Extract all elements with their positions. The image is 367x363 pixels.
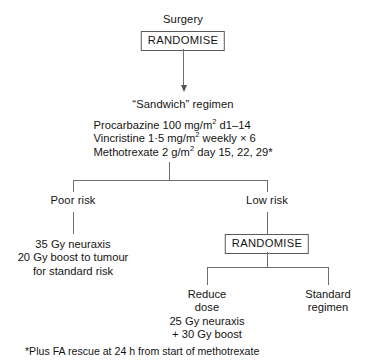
low-risk-arm-a-block: Reduce dose 25 Gy neuraxis + 30 Gy boost — [169, 288, 244, 342]
low-risk-arm-b-block: Standard regimen — [305, 288, 350, 315]
drug-schedule: weekly × 6 — [200, 132, 256, 144]
drug-name: Vincristine — [94, 132, 145, 144]
arm-a-line-2: dose — [169, 301, 244, 314]
connector-poor-risk-drop — [73, 180, 74, 192]
branch-label-low-risk: Low risk — [246, 194, 288, 207]
poor-risk-line-2: 20 Gy boost to tumour — [18, 251, 129, 264]
node-surgery: Surgery — [163, 13, 203, 26]
drug-dose: 2 g/m — [162, 146, 190, 158]
drug-line-procarbazine: Procarbazine 100 mg/m2 d1–14 — [94, 119, 273, 132]
drug-dose: 100 mg/m — [163, 119, 213, 131]
connector-low-risk-to-randomise — [267, 212, 268, 234]
arm-a-line-3: 25 Gy neuraxis — [169, 315, 244, 328]
drug-name: Methotrexate — [94, 146, 159, 158]
connector-poor-risk-to-treatment — [73, 212, 74, 234]
connector-arm-a-drop — [207, 267, 208, 285]
connector-randomise-to-regimen — [183, 49, 184, 87]
connector-randomise2-stem — [267, 252, 268, 267]
drug-schedule: day 15, 22, 29* — [194, 146, 272, 158]
drug-schedule: d1–14 — [217, 119, 251, 131]
connector-arm-split-horizontal — [207, 267, 328, 268]
arm-a-line-1: Reduce — [169, 288, 244, 301]
connector-risk-split-horizontal — [73, 180, 267, 181]
arm-b-line-2: regimen — [305, 301, 350, 314]
poor-risk-line-1: 35 Gy neuraxis — [18, 238, 129, 251]
arm-b-line-1: Standard — [305, 288, 350, 301]
arm-a-line-4: + 30 Gy boost — [169, 328, 244, 341]
drug-line-methotrexate: Methotrexate 2 g/m2 day 15, 22, 29* — [94, 146, 273, 159]
drug-dose: 1·5 mg/m — [148, 132, 195, 144]
regimen-heading: “Sandwich” regimen — [132, 98, 233, 111]
drug-line-vincristine: Vincristine 1·5 mg/m2 weekly × 6 — [94, 132, 273, 145]
poor-risk-treatment-block: 35 Gy neuraxis 20 Gy boost to tumour for… — [18, 238, 129, 278]
footnote-text: *Plus FA rescue at 24 h from start of me… — [25, 345, 259, 357]
arrowhead-icon-to-regimen — [181, 85, 187, 92]
connector-low-risk-drop — [267, 180, 268, 192]
connector-arm-b-drop — [328, 267, 329, 285]
regimen-drug-list: Procarbazine 100 mg/m2 d1–14 Vincristine… — [94, 119, 273, 159]
drug-name: Procarbazine — [94, 119, 160, 131]
poor-risk-line-3: for standard risk — [18, 265, 129, 278]
trial-flowchart: Surgery RANDOMISE “Sandwich” regimen Pro… — [0, 0, 367, 363]
connector-regimen-stem — [169, 162, 170, 180]
branch-label-poor-risk: Poor risk — [50, 194, 95, 207]
